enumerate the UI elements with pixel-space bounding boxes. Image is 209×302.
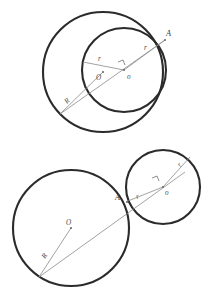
tangent-point-dot — [126, 201, 128, 203]
small-center-dot — [162, 186, 164, 188]
small-center-label-o: o — [165, 189, 169, 197]
small-radius-right-label-r: r — [144, 44, 147, 52]
large-center-dot — [102, 71, 104, 73]
tangent-point-label-A: A — [114, 193, 121, 202]
large-center-label-O: O — [96, 74, 102, 82]
canvas-background — [0, 0, 209, 302]
small-center-label-o: o — [127, 73, 131, 81]
large-center-label-O: O — [66, 219, 72, 227]
small-center-dot — [123, 69, 125, 71]
large-center-dot — [70, 227, 72, 229]
geometry-figure-canvas: A O o r r R A O o r r R — [0, 0, 209, 302]
tangent-point-label-A: A — [165, 29, 172, 38]
small-radius-left-label-r: r — [98, 55, 101, 63]
tangent-point-dot — [164, 39, 166, 41]
